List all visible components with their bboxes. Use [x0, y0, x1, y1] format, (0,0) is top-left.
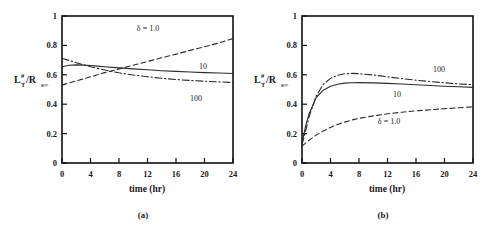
x-tick-label: 16: [172, 169, 181, 179]
curve-labels-a: δ = 1.0 10 100: [137, 24, 207, 103]
figure-container: 0 0.2 0.4 0.6 0.8 1 0 4 8 12 16 20 24 ti…: [0, 0, 498, 230]
curve-delta-1-a: [62, 39, 233, 86]
x-axis-title-b: time (hr): [369, 184, 405, 195]
y-tick-label: 0.4: [286, 99, 297, 109]
panel-a-plot-area: 0 0.2 0.4 0.6 0.8 1 0 4 8 12 16 20 24 ti…: [14, 11, 238, 195]
x-tick-label: 12: [383, 169, 392, 179]
x-tick-label: 12: [143, 169, 152, 179]
y-axis-title-subscript-s: s∞: [281, 81, 289, 88]
y-axis-title-base: L: [14, 74, 21, 85]
curve-label-delta-1-b: δ = 1.0: [378, 117, 400, 126]
x-tick-label: 4: [328, 169, 333, 179]
y-axis-title-subscript-s: s∞: [41, 81, 49, 88]
x-tick-label: 0: [300, 169, 304, 179]
x-axis-title-a: time (hr): [129, 184, 165, 195]
curve-label-100-b: 100: [433, 65, 445, 74]
y-tick-label: 0: [293, 158, 297, 168]
curve-label-10-b: 10: [393, 90, 401, 99]
y-tick-labels-a: 0 0.2 0.4 0.6 0.8 1: [46, 11, 57, 168]
y-tick-label: 0.4: [46, 99, 57, 109]
curve-labels-b: 100 10 δ = 1.0: [378, 65, 445, 126]
x-tick-label: 16: [412, 169, 421, 179]
curves-b: [302, 73, 473, 146]
x-tick-labels-b: 0 4 8 12 16 20 24: [300, 169, 478, 179]
x-tick-label: 0: [60, 169, 64, 179]
y-axis-title-slash-r: /R: [25, 74, 37, 85]
y-tick-label: 0.2: [286, 129, 297, 139]
x-tick-label: 8: [357, 169, 361, 179]
y-axis-title-b: L # T /R s∞: [254, 72, 289, 88]
plot-frame-b: [302, 16, 473, 163]
panel-b-plot-area: 0 0.2 0.4 0.6 0.8 1 0 4 8 12 16 20 24 ti…: [254, 11, 478, 195]
x-tick-label: 8: [117, 169, 121, 179]
y-tick-label: 1: [53, 11, 57, 21]
y-tick-label: 0: [53, 158, 57, 168]
curve-delta-1-b: [302, 107, 473, 146]
chart-panel-a: 0 0.2 0.4 0.6 0.8 1 0 4 8 12 16 20 24 ti…: [0, 0, 249, 230]
chart-panel-b: 0 0.2 0.4 0.6 0.8 1 0 4 8 12 16 20 24 ti…: [249, 0, 498, 230]
curve-100-b: [302, 73, 473, 144]
y-tick-label: 0.6: [286, 70, 297, 80]
panel-caption-a: (a): [138, 210, 149, 220]
curve-label-delta-1-a: δ = 1.0: [137, 24, 159, 33]
x-tick-labels-a: 0 4 8 12 16 20 24: [60, 169, 238, 179]
y-tick-label: 0.6: [46, 70, 57, 80]
y-axis-title-superscript: #: [21, 72, 25, 79]
y-tick-label: 0.8: [46, 40, 57, 50]
y-tick-labels-b: 0 0.2 0.4 0.6 0.8 1: [286, 11, 297, 168]
y-tick-label: 1: [293, 11, 297, 21]
y-axis-title-slash-r: /R: [265, 74, 277, 85]
y-axis-title-a: L # T /R s∞: [14, 72, 49, 88]
y-tick-label: 0.8: [286, 40, 297, 50]
x-tick-label: 20: [200, 169, 209, 179]
curves-a: [62, 39, 233, 86]
y-axis-title-superscript: #: [261, 72, 265, 79]
x-tick-label: 24: [469, 169, 478, 179]
y-tick-label: 0.2: [46, 129, 57, 139]
plot-frame-a: [62, 16, 233, 163]
x-tick-label: 4: [88, 169, 93, 179]
panel-caption-b: (b): [378, 210, 389, 220]
curve-label-100-a: 100: [190, 94, 202, 103]
curve-10-b: [302, 83, 473, 144]
panel-b-svg: 0 0.2 0.4 0.6 0.8 1 0 4 8 12 16 20 24 ti…: [249, 0, 498, 230]
x-tick-label: 20: [440, 169, 449, 179]
x-tick-label: 24: [229, 169, 238, 179]
curve-100-a: [62, 58, 233, 82]
panel-a-svg: 0 0.2 0.4 0.6 0.8 1 0 4 8 12 16 20 24 ti…: [0, 0, 249, 230]
curve-label-10-a: 10: [199, 62, 207, 71]
y-axis-title-base: L: [254, 74, 261, 85]
